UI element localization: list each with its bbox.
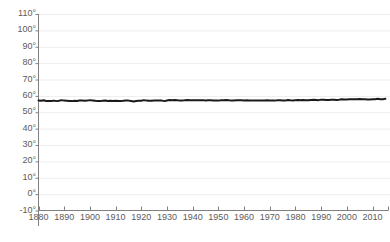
y-axis-tick-label: 40° [2,124,36,133]
x-axis-tick-label: 1940 [183,212,203,222]
x-axis-tick-label: 1950 [208,212,228,222]
chart-container: 110°100°90°80°70°60°50°40°30°20°10°0°-10… [0,0,390,242]
y-axis-tick-label: 70° [2,75,36,84]
y-axis-tick-label: 0° [2,189,36,198]
x-axis-tick-label: 2010 [363,212,383,222]
y-axis-tick-label: 90° [2,42,36,51]
y-axis-tick-label: 50° [2,107,36,116]
x-axis-tick-label: 1920 [131,212,151,222]
y-axis-label-group: 110°100°90°80°70°60°50°40°30°20°10°0°-10… [0,0,36,242]
x-axis-tick-label: 1990 [311,212,331,222]
x-axis-tick-label: 1910 [106,212,126,222]
x-axis-tick-label: 1880 [28,212,48,222]
y-axis-tick-label: 110° [2,9,36,18]
y-axis-tick-label: 20° [2,156,36,165]
x-axis-tick-label: 2000 [337,212,357,222]
y-axis-tick-label: 100° [2,25,36,34]
y-axis-tick-label: 10° [2,173,36,182]
y-axis-tick-label: 60° [2,91,36,100]
line-chart-plot [0,0,390,242]
x-axis-tick-label: 1900 [80,212,100,222]
x-axis-tick-label: 1960 [234,212,254,222]
gridlines [39,15,390,195]
x-axis-label-group: 1880189019001910192019301940195019601970… [0,212,390,226]
x-axis-tick-label: 1980 [285,212,305,222]
x-axis-tick-label: 1930 [157,212,177,222]
y-axis-tick-label: 80° [2,58,36,67]
x-axis-tick-label: 1970 [260,212,280,222]
temperature-series-line [39,99,386,102]
x-axis-tick-label: 1890 [54,212,74,222]
x-axis-ticks [40,207,389,211]
y-axis-tick-label: 30° [2,140,36,149]
